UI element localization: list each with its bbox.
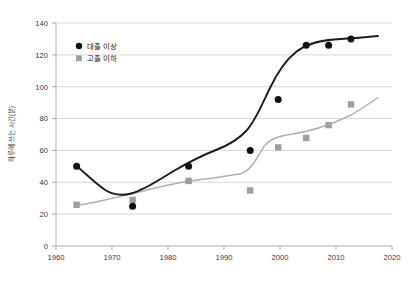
data-point	[348, 35, 355, 42]
x-tick-label-1980: 1980	[160, 253, 177, 262]
x-tick-label-2010: 2010	[328, 253, 345, 262]
y-tick-label-60: 60	[40, 146, 48, 155]
data-point	[247, 187, 253, 193]
data-point	[303, 135, 309, 141]
x-tick-label-2020: 2020	[384, 253, 401, 262]
y-axis-title: 하루에 쓰는 시간(분)	[7, 106, 16, 162]
x-tick-label-2000: 2000	[272, 253, 289, 262]
y-tick-label-120: 120	[35, 51, 48, 60]
data-point	[129, 203, 136, 210]
legend-marker-circle-icon	[76, 43, 82, 49]
data-point	[348, 101, 354, 107]
data-point	[325, 42, 332, 49]
chart-container: 140 120 100 80 60 40 20 0 1960 1970 1980…	[0, 0, 409, 283]
scatter-chart: 140 120 100 80 60 40 20 0 1960 1970 1980…	[0, 0, 409, 283]
y-tick-label-100: 100	[35, 83, 48, 92]
x-tick-label-1970: 1970	[104, 253, 121, 262]
legend-marker-square-icon	[76, 55, 82, 61]
data-point	[73, 163, 80, 170]
data-point	[185, 178, 191, 184]
legend-label-series-1: 대졸 이상	[87, 42, 117, 51]
y-tick-label-0: 0	[44, 242, 48, 251]
data-point	[275, 96, 282, 103]
chart-background	[0, 0, 409, 283]
y-tick-label-40: 40	[40, 178, 48, 187]
y-tick-label-80: 80	[40, 114, 48, 123]
x-tick-label-1960: 1960	[48, 253, 65, 262]
data-point	[303, 42, 310, 49]
data-point	[185, 163, 192, 170]
data-point	[247, 147, 254, 154]
x-tick-label-1990: 1990	[216, 253, 233, 262]
y-tick-label-140: 140	[35, 19, 48, 28]
data-point	[73, 202, 79, 208]
data-point	[129, 197, 135, 203]
y-tick-label-20: 20	[40, 210, 48, 219]
data-point	[275, 144, 281, 150]
legend-label-series-2: 고졸 이하	[87, 54, 117, 63]
data-point	[325, 122, 331, 128]
